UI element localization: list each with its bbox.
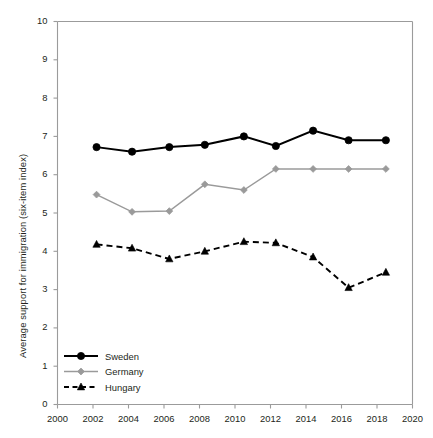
data-point [345,137,352,144]
y-axis-ticks [54,22,58,405]
y-tick-label-7: 7 [26,130,48,141]
data-point [129,208,136,215]
x-tick-label-2016: 2016 [322,413,362,424]
data-point [345,166,352,173]
y-tick-label-2: 2 [26,321,48,332]
legend-item-germany: Germany [64,366,144,377]
data-point [240,133,247,140]
y-tick-label-10: 10 [26,15,48,26]
data-point [310,127,317,134]
legend-item-sweden: Sweden [64,351,139,362]
x-tick-label-2010: 2010 [215,413,255,424]
data-point [128,148,135,155]
x-tick-label-2002: 2002 [73,413,113,424]
x-axis-ticks [58,405,413,409]
x-tick-label-2006: 2006 [144,413,184,424]
data-series-layer [93,127,390,291]
series-germany [93,166,389,216]
data-point [310,166,317,173]
immigration-support-line-chart: Average support for immigration (six-ite… [0,0,433,438]
data-point [93,191,100,198]
x-tick-label-2012: 2012 [251,413,291,424]
y-tick-label-9: 9 [26,53,48,64]
legend-label: Germany [105,366,144,377]
x-tick-label-2018: 2018 [357,413,397,424]
x-tick-label-2014: 2014 [286,413,326,424]
series-hungary [93,238,390,291]
x-tick-label-2000: 2000 [38,413,78,424]
data-point [382,166,389,173]
plot-frame [58,22,413,405]
series-sweden [93,127,390,155]
y-tick-label-1: 1 [26,360,48,371]
data-point [166,144,173,151]
x-tick-label-2020: 2020 [393,413,433,424]
data-point [201,141,208,148]
y-tick-label-4: 4 [26,245,48,256]
x-tick-label-2008: 2008 [180,413,220,424]
data-point [382,137,389,144]
chart-legend: SwedenGermanyHungary [64,351,144,393]
y-tick-label-0: 0 [26,398,48,409]
y-tick-label-3: 3 [26,283,48,294]
data-point [272,142,279,149]
x-tick-label-2004: 2004 [109,413,149,424]
legend-marker [78,368,85,375]
data-point [382,268,389,275]
chart-canvas: SwedenGermanyHungary [0,0,433,438]
legend-item-hungary: Hungary [64,382,141,393]
y-tick-label-8: 8 [26,92,48,103]
legend-label: Hungary [105,382,141,393]
legend-marker [77,352,84,359]
legend-label: Sweden [105,351,139,362]
y-tick-label-5: 5 [26,207,48,218]
data-point [93,144,100,151]
y-tick-label-6: 6 [26,168,48,179]
